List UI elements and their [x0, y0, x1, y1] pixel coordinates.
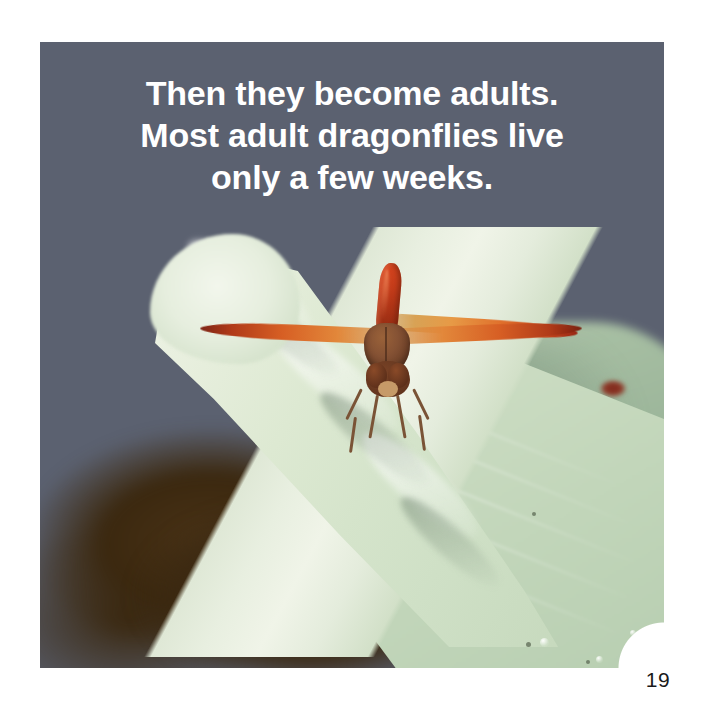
dragonfly-face	[378, 381, 398, 397]
caption-line-1: Then they become adults.	[40, 72, 664, 114]
thorax-seam	[385, 327, 387, 365]
leaf-speck	[586, 660, 590, 664]
dragonfly-leg	[396, 395, 407, 439]
water-droplet	[630, 630, 636, 636]
water-droplet	[540, 638, 549, 647]
dragonfly-leg	[418, 415, 426, 451]
page-number: 19	[630, 660, 686, 700]
dragonfly-leg	[345, 388, 363, 420]
leaf-speck	[526, 642, 531, 647]
dragonfly-leg	[349, 417, 357, 453]
caption-line-3: only a few weeks.	[40, 156, 664, 198]
page-caption: Then they become adults. Most adult drag…	[40, 72, 664, 198]
caption-line-2: Most adult dragonflies live	[40, 114, 664, 156]
dragonfly	[190, 257, 590, 472]
book-page: Then they become adults. Most adult drag…	[0, 0, 704, 712]
leaf-speck	[532, 512, 536, 516]
dragonfly-leg	[368, 395, 379, 439]
water-droplet	[596, 656, 603, 663]
